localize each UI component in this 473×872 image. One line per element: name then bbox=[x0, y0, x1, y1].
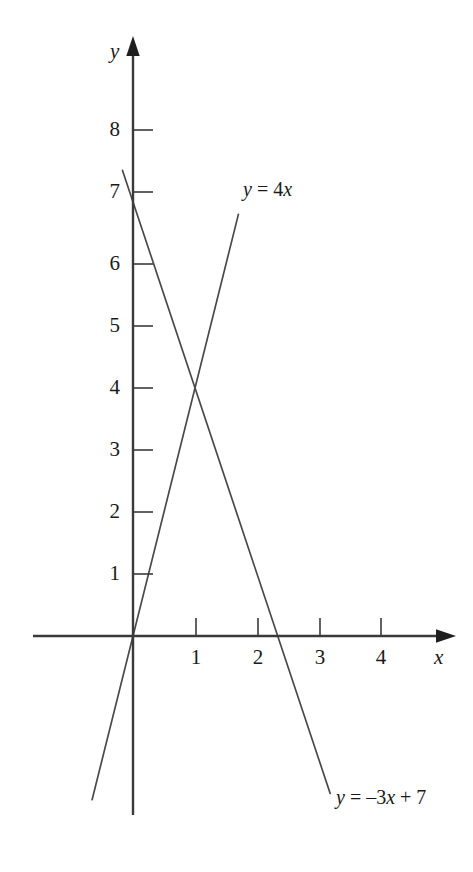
x-tick-label-3: 3 bbox=[310, 647, 330, 668]
function-lines bbox=[92, 170, 330, 799]
y-tick-label-2: 2 bbox=[86, 501, 120, 522]
x-axis-label: x bbox=[434, 647, 443, 668]
y-tick-label-1: 1 bbox=[86, 563, 120, 584]
annotation-2-operator: = –3 bbox=[345, 786, 386, 808]
coordinate-plane-figure: y x 1 2 3 4 5 6 7 8 1 2 3 4 y = 4x y = –… bbox=[0, 0, 473, 872]
x-tick-label-4: 4 bbox=[371, 647, 391, 668]
x-tick-label-1: 1 bbox=[186, 647, 206, 668]
y-tick-label-3: 3 bbox=[86, 439, 120, 460]
y-tick-label-5: 5 bbox=[86, 315, 120, 336]
graph-canvas bbox=[0, 0, 473, 872]
x-tick-label-2: 2 bbox=[248, 647, 268, 668]
annotation-1-lhs: y bbox=[243, 178, 252, 200]
annotation-2-lhs: y bbox=[336, 786, 345, 808]
annotation-2-tail: + 7 bbox=[395, 786, 426, 808]
annotation-line-y-equals-4x: y = 4x bbox=[243, 179, 292, 199]
y-axis-arrowhead bbox=[126, 36, 139, 56]
y-axis-label: y bbox=[110, 41, 119, 62]
axes-group bbox=[33, 36, 456, 815]
x-axis-arrowhead bbox=[436, 629, 456, 642]
y-tick-label-6: 6 bbox=[86, 253, 120, 274]
y-axis-ticks bbox=[133, 130, 153, 574]
x-axis-ticks bbox=[196, 618, 381, 636]
annotation-line-y-equals-minus3x-plus7: y = –3x + 7 bbox=[336, 787, 426, 807]
y-tick-label-8: 8 bbox=[86, 119, 120, 140]
annotation-2-variable: x bbox=[386, 786, 395, 808]
annotation-1-operator: = 4 bbox=[252, 178, 283, 200]
annotation-1-variable: x bbox=[283, 178, 292, 200]
y-tick-label-7: 7 bbox=[86, 181, 120, 202]
y-tick-label-4: 4 bbox=[86, 377, 120, 398]
